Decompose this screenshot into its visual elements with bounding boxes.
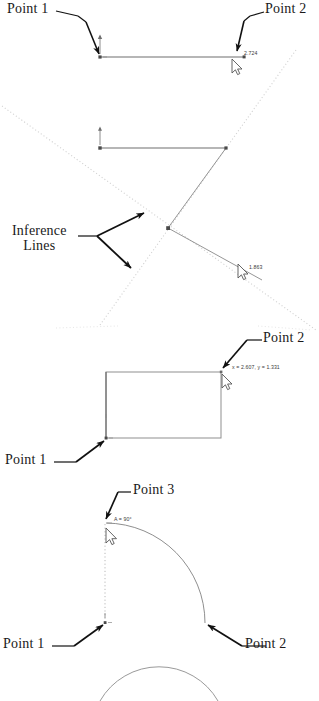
figure-inference-geometry — [2, 50, 316, 330]
figure-1-length-tooltip: 2.724 — [244, 50, 257, 56]
figure-3-point-2-label: Point 2 — [263, 330, 304, 346]
figure-horizontal-line-geometry — [56, 11, 264, 59]
figure-4-point-1-label: Point 1 — [3, 636, 44, 652]
figure-3-cursor-arrow — [222, 374, 232, 390]
inference-lines-label-line-1: Inference — [12, 224, 67, 239]
figure-bottom-partial-arc — [100, 667, 218, 701]
figure-4-cursor-arrow — [106, 528, 117, 545]
figure-4-point-2-label: Point 2 — [245, 636, 286, 652]
figure-1-point-2-label: Point 2 — [265, 1, 306, 17]
figure-2-length-tooltip: 1.863 — [249, 264, 262, 270]
figure-rectangle-geometry — [54, 326, 312, 462]
inference-lines-label-line-2: Lines — [12, 239, 67, 254]
figure-arc-geometry — [52, 492, 266, 646]
figure-1-point-1-label: Point 1 — [7, 1, 48, 17]
figure-4-point-3-label: Point 3 — [133, 482, 174, 498]
figure-1-cursor-arrow — [232, 59, 242, 75]
figure-2-cursor-arrow — [238, 264, 248, 280]
drawing-canvas — [0, 0, 319, 701]
figure-2-inference-lines-label: Inference Lines — [12, 224, 67, 253]
figure-3-point-1-label: Point 1 — [5, 452, 46, 468]
drawing-page: Point 1 Point 2 2.724 Inference Lines 1.… — [0, 0, 319, 701]
figure-3-coordinate-tooltip: x = 2.607, y = 1.331 — [232, 364, 280, 370]
figure-4-angle-tooltip: A = 90° — [114, 516, 132, 522]
